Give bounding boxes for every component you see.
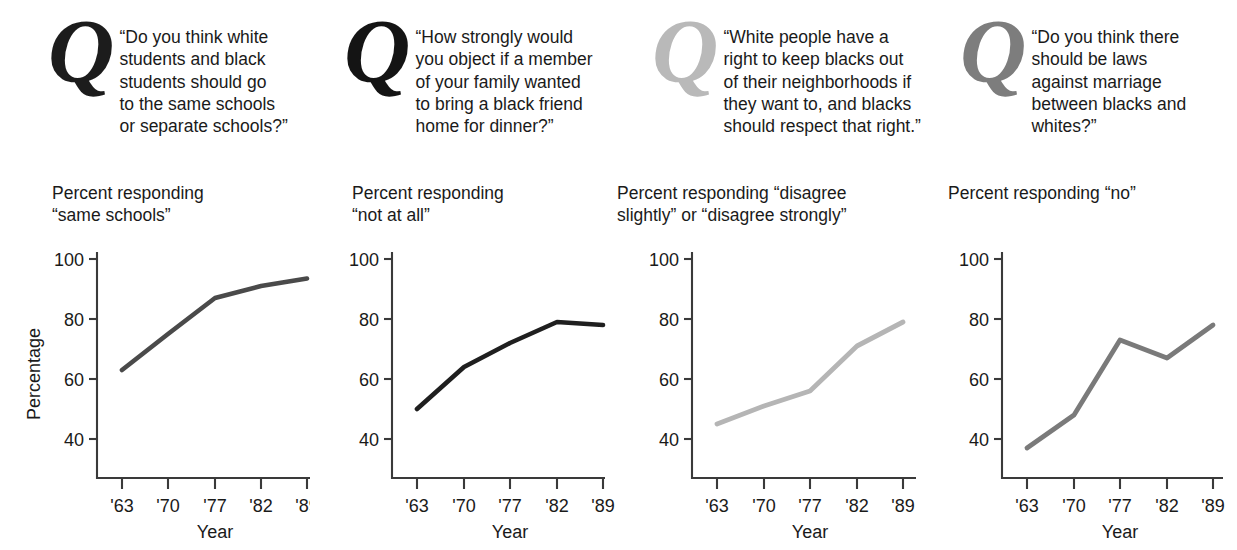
chart-3-svg: 100 80 60 40 '63 '70 '77 '82 '89 Year [616,246,932,546]
y-tick-label: 100 [959,250,989,270]
x-tick-label: '77 [498,496,521,516]
y-ticks [684,259,692,439]
y-tick-label: 60 [969,370,989,390]
y-tick-label: 100 [54,250,84,270]
y-tick-label: 80 [659,310,679,330]
chart-4: 100 80 60 40 '63 '70 '77 '82 '89 Year [930,246,1237,546]
data-line-1 [122,279,307,371]
data-line-4 [1027,325,1213,448]
q-letter-icon: Q [344,12,408,91]
panel-schools: Q “Do you think white students and black… [0,0,310,550]
x-tick-label: '63 [110,496,133,516]
axis-lines [692,252,916,478]
x-ticks [717,478,903,489]
x-tick-label: '77 [1108,496,1131,516]
x-tick-label: '77 [798,496,821,516]
panel-subtitle: Percent responding “no” [948,182,1237,204]
x-axis-title: Year [492,522,528,542]
y-tick-label: 80 [359,310,379,330]
y-tick-label: 60 [359,370,379,390]
q-letter-icon: Q [48,12,112,91]
x-tick-label: '70 [752,496,775,516]
chart-1-svg: 100 80 60 40 '63 '70 '77 '82 '89 Year [0,246,310,546]
data-line-3 [717,322,903,424]
y-tick-label: 40 [969,430,989,450]
x-tick-label: '63 [1015,496,1038,516]
x-tick-label: '63 [405,496,428,516]
x-axis-title: Year [1102,522,1138,542]
x-ticks [417,478,603,489]
figure-root: Q “Do you think white students and black… [0,0,1237,550]
question-block-2: Q “How strongly would you object if a me… [344,18,616,138]
question-text: “Do you think there should be laws again… [1031,26,1186,138]
y-tick-label: 80 [64,310,84,330]
panel-neighborhoods: Q “White people have a right to keep bla… [616,0,932,550]
chart-1: 100 80 60 40 '63 '70 '77 '82 '89 Year [0,246,310,546]
y-tick-label: 100 [349,250,379,270]
question-text: “White people have a right to keep black… [723,26,920,138]
panel-subtitle: Percent responding “same schools” [52,182,302,227]
y-tick-label: 60 [659,370,679,390]
x-tick-label: '89 [891,496,914,516]
q-letter-icon: Q [652,12,716,91]
x-tick-label: '70 [452,496,475,516]
question-block-3: Q “White people have a right to keep bla… [652,18,934,138]
chart-3: 100 80 60 40 '63 '70 '77 '82 '89 Year [616,246,932,546]
x-tick-label: '82 [1155,496,1178,516]
x-tick-label: '70 [1062,496,1085,516]
panel-subtitle: Percent responding “not at all” [352,182,606,227]
y-tick-label: 40 [64,430,84,450]
y-ticks [994,259,1002,439]
x-tick-label: '77 [203,496,226,516]
chart-2-svg: 100 80 60 40 '63 '70 '77 '82 '89 Year [308,246,618,546]
question-block-4: Q “Do you think there should be laws aga… [960,18,1237,138]
y-tick-label: 40 [659,430,679,450]
axis-lines [392,252,605,478]
y-ticks [384,259,392,439]
y-ticks [89,259,97,439]
question-text: “Do you think white students and black s… [119,26,287,138]
panel-marriage: Q “Do you think there should be laws aga… [930,0,1237,550]
x-tick-label: '89 [1201,496,1224,516]
y-tick-label: 60 [64,370,84,390]
x-ticks [1027,478,1213,489]
q-letter-icon: Q [960,12,1024,91]
x-ticks [122,478,307,489]
x-tick-label: '70 [156,496,179,516]
x-tick-label: '82 [249,496,272,516]
question-text: “How strongly would you object if a memb… [415,26,592,138]
x-tick-label: '82 [845,496,868,516]
data-line-2 [417,322,603,409]
panel-dinner: Q “How strongly would you object if a me… [308,0,618,550]
x-tick-label: '89 [591,496,614,516]
y-tick-label: 80 [969,310,989,330]
x-axis-title: Year [197,522,233,542]
chart-4-svg: 100 80 60 40 '63 '70 '77 '82 '89 Year [930,246,1237,546]
x-tick-label: '63 [705,496,728,516]
x-axis-title: Year [792,522,828,542]
y-axis-title: Percentage [24,328,44,420]
x-tick-label: '82 [545,496,568,516]
panel-subtitle: Percent responding “disagree slightly” o… [617,182,929,227]
chart-2: 100 80 60 40 '63 '70 '77 '82 '89 Year [308,246,618,546]
question-block-1: Q “Do you think white students and black… [48,18,310,138]
y-tick-label: 100 [649,250,679,270]
y-tick-label: 40 [359,430,379,450]
